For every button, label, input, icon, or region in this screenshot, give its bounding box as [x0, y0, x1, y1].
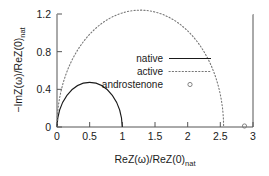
- x-tick-label: 2.5: [213, 130, 228, 142]
- nyquist-impedance-plot: 0 0.5 1 1.5 2 2.5 3 0 0.4 0.8 1.2 ReZ(ω)…: [0, 0, 269, 176]
- legend-label-active: active: [137, 66, 164, 77]
- y-tick-label: 0.8: [36, 46, 51, 58]
- x-tick-label: 0.5: [82, 130, 97, 142]
- x-tick-label: 1: [119, 130, 125, 142]
- x-tick-label: 0: [54, 130, 60, 142]
- x-tick-label: 2: [185, 130, 191, 142]
- x-tick-label: 3: [250, 130, 256, 142]
- legend-label-native: native: [136, 53, 163, 64]
- x-axis-title-sub: nat: [185, 159, 196, 168]
- y-axis-title-sub: nat: [18, 26, 27, 37]
- y-tick-label: 0: [45, 121, 51, 133]
- x-axis-title-main: ReZ(ω)/ReZ(0): [114, 153, 185, 165]
- y-tick-label: 1.2: [36, 8, 51, 20]
- figure-container: 0 0.5 1 1.5 2 2.5 3 0 0.4 0.8 1.2 ReZ(ω)…: [0, 0, 269, 176]
- x-tick-labels: 0 0.5 1 1.5 2 2.5 3: [54, 130, 256, 142]
- x-tick-label: 1.5: [148, 130, 163, 142]
- y-tick-label: 0.4: [36, 83, 51, 95]
- y-axis-title-main: −ImZ(ω)/ReZ(0): [12, 38, 24, 113]
- legend-label-androstenone: androstenone: [102, 79, 164, 90]
